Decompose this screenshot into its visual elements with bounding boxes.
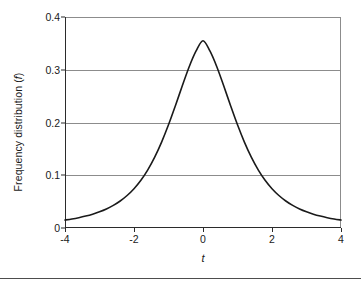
y-axis-tick-label: 0.4 — [45, 11, 60, 23]
plot-area: 00.10.20.30.4 -4-2024 — [65, 17, 341, 228]
y-axis-title-suffix: ) — [12, 73, 24, 77]
y-axis-tick-label: 0 — [54, 222, 60, 234]
y-axis-tick-label: 0.2 — [45, 117, 60, 129]
y-axis-tick-label: 0.3 — [45, 64, 60, 76]
y-axis-title-symbol: f — [12, 76, 24, 79]
x-axis-tick-label: -2 — [129, 233, 138, 245]
y-axis-tick-label: 0.1 — [45, 169, 60, 181]
chart-figure: Frequency distribution (f) 00.10.20.30.4… — [0, 0, 361, 285]
x-axis-tick-mark — [272, 228, 273, 232]
distribution-curve-path — [65, 41, 341, 220]
figure-bottom-rule — [0, 278, 361, 279]
x-axis-tick-label: 4 — [338, 233, 344, 245]
distribution-curve — [65, 17, 341, 228]
x-axis-title: t — [65, 252, 341, 264]
x-axis-tick-label: 0 — [200, 233, 206, 245]
x-axis-tick-mark — [65, 228, 66, 232]
x-axis-tick-mark — [203, 228, 204, 232]
x-axis-tick-label: -4 — [60, 233, 69, 245]
y-axis-title-prefix: Frequency distribution ( — [12, 79, 24, 191]
x-axis-tick-mark — [134, 228, 135, 232]
x-axis-tick-label: 2 — [269, 233, 275, 245]
y-axis-title: Frequency distribution (f) — [11, 17, 25, 247]
x-axis-tick-mark — [341, 228, 342, 232]
